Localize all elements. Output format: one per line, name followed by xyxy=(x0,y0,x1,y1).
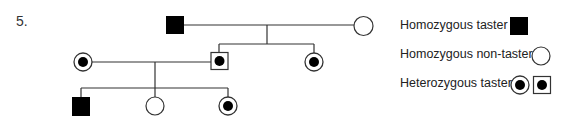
individual-II-1 xyxy=(74,53,92,71)
individual-I-2 xyxy=(354,17,373,36)
legend-label-homozygous-taster: Homozygous taster xyxy=(400,18,508,32)
individual-III-1 xyxy=(72,97,90,116)
open-circle-icon xyxy=(146,97,164,115)
individual-II-3 xyxy=(305,53,323,71)
legend-label-heterozygous-taster: Heterozygous taster xyxy=(400,76,512,90)
legend-symbol-homozygous-taster xyxy=(510,17,528,35)
filled-square-icon xyxy=(166,16,184,34)
open-circle-icon xyxy=(354,17,373,36)
individual-I-1 xyxy=(166,16,184,34)
legend-symbol-homozygous-non-taster xyxy=(532,47,550,65)
legend-label-homozygous-non-taster: Homozygous non-taster xyxy=(400,47,533,61)
individual-III-3 xyxy=(219,97,237,115)
filled-square-icon xyxy=(72,97,90,116)
individual-II-2 xyxy=(211,53,228,70)
individual-III-2 xyxy=(146,97,164,115)
open-circle-icon xyxy=(532,47,550,65)
filled-square-icon xyxy=(510,17,528,35)
legend-symbol-heterozygous-taster xyxy=(511,76,551,94)
